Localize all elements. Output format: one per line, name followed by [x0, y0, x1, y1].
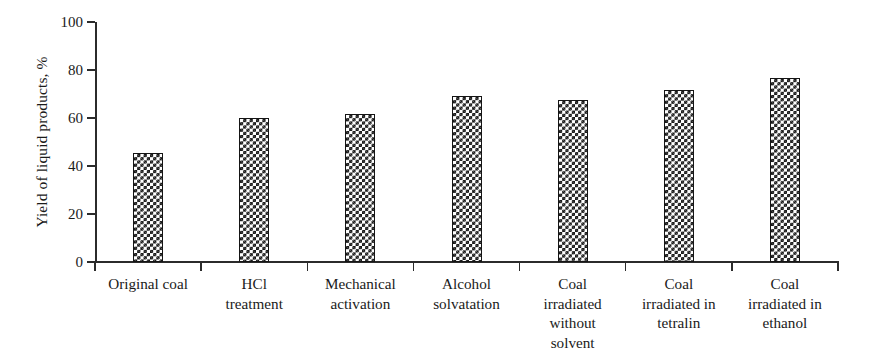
x-axis-category-label-line: Alcohol [406, 274, 526, 294]
bar [770, 78, 800, 262]
bar [558, 100, 588, 262]
y-axis-tick [87, 117, 95, 119]
x-axis-category-label-line: activation [300, 294, 420, 314]
x-axis-tick [731, 262, 733, 271]
x-axis-tick [625, 262, 627, 271]
x-axis-category-label-line: irradiated in [725, 294, 845, 314]
x-axis-category-label-line: ethanol [725, 313, 845, 333]
y-axis-tick [87, 213, 95, 215]
y-axis-tick [87, 165, 95, 167]
x-axis-tick [413, 262, 415, 271]
x-axis-category-label: Coalirradiated intetralin [619, 274, 739, 333]
y-axis-tick-label: 60 [47, 110, 83, 127]
y-axis-tick-label: 100 [47, 14, 83, 31]
y-axis-tick [87, 69, 95, 71]
bar [452, 96, 482, 262]
bar [239, 118, 269, 262]
y-axis-title: Yield of liquid products, % [28, 22, 56, 262]
x-axis-category-label-line: Original coal [88, 274, 208, 294]
bar [664, 90, 694, 262]
x-axis-category-label-line: treatment [194, 294, 314, 314]
x-axis-category-label: Coalirradiated inethanol [725, 274, 845, 333]
x-axis-category-label-line: solvent [513, 333, 633, 353]
x-axis-category-label-line: without [513, 313, 633, 333]
y-axis-tick-label: 80 [47, 62, 83, 79]
x-axis-category-label-line: tetralin [619, 313, 739, 333]
x-axis-tick [837, 262, 839, 271]
x-axis-category-label-line: Mechanical [300, 274, 420, 294]
bar [133, 153, 163, 262]
x-axis-category-label-line: Coal [619, 274, 739, 294]
bar [345, 114, 375, 262]
x-axis-category-label-line: HCl [194, 274, 314, 294]
y-axis-tick-label: 20 [47, 206, 83, 223]
x-axis-category-label-line: irradiated in [619, 294, 739, 314]
bar-chart-figure: Yield of liquid products, % 020406080100… [0, 0, 876, 358]
x-axis-category-label: Original coal [88, 274, 208, 294]
x-axis-category-label: Mechanicalactivation [300, 274, 420, 313]
x-axis-tick [94, 262, 96, 271]
y-axis-tick-label: 40 [47, 158, 83, 175]
x-axis-category-label: Coalirradiatedwithoutsolvent [513, 274, 633, 352]
y-axis-tick [87, 21, 95, 23]
x-axis-category-label: Alcoholsolvatation [406, 274, 526, 313]
x-axis-category-label-line: Coal [725, 274, 845, 294]
x-axis-category-label-line: solvatation [406, 294, 526, 314]
y-axis-tick-label: 0 [47, 254, 83, 271]
x-axis-category-label: HCltreatment [194, 274, 314, 313]
y-axis-line [95, 22, 97, 263]
x-axis-category-label-line: irradiated [513, 294, 633, 314]
x-axis-category-label-line: Coal [513, 274, 633, 294]
x-axis-tick [200, 262, 202, 271]
x-axis-tick [307, 262, 309, 271]
x-axis-tick [519, 262, 521, 271]
